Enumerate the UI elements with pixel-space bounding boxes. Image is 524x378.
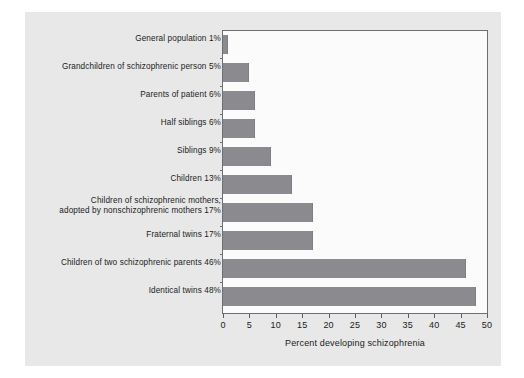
y-axis-tick — [220, 114, 223, 115]
x-axis-tick — [249, 314, 250, 318]
y-axis-tick — [220, 170, 223, 171]
x-axis-tick — [408, 314, 409, 318]
x-axis-tick-label: 10 — [271, 320, 281, 330]
bar — [223, 287, 476, 306]
x-axis-tick — [381, 314, 382, 318]
x-axis-tick-label: 40 — [429, 320, 439, 330]
y-axis-tick — [220, 226, 223, 227]
y-axis-tick — [220, 282, 223, 283]
bar — [223, 35, 228, 54]
bar — [223, 91, 255, 110]
category-label: Identical twins 48% — [25, 286, 221, 296]
x-axis-tick — [487, 314, 488, 318]
category-label: General population 1% — [25, 34, 221, 44]
category-label: Parents of patient 6% — [25, 90, 221, 100]
bar — [223, 203, 313, 222]
category-label: Fraternal twins 17% — [25, 230, 221, 240]
bar — [223, 175, 292, 194]
x-axis-tick-label: 25 — [350, 320, 360, 330]
y-axis-tick — [220, 254, 223, 255]
category-label-column: General population 1% Grandchildren of s… — [25, 30, 221, 314]
bar — [223, 259, 466, 278]
bars-group — [223, 31, 487, 313]
bar — [223, 231, 313, 250]
bar — [223, 119, 255, 138]
category-label: Children of schizophrenic mothers, adopt… — [25, 196, 221, 217]
bar — [223, 63, 249, 82]
x-axis-tick-label: 35 — [403, 320, 413, 330]
y-axis-tick — [220, 198, 223, 199]
x-axis-tick — [434, 314, 435, 318]
category-label: Half siblings 6% — [25, 118, 221, 128]
x-axis-tick — [461, 314, 462, 318]
x-axis-tick-label: 5 — [247, 320, 252, 330]
x-axis-tick — [355, 314, 356, 318]
x-axis-tick-label: 50 — [482, 320, 492, 330]
x-axis-tick-label: 45 — [455, 320, 465, 330]
category-label: Grandchildren of schizophrenic person 5% — [25, 62, 221, 72]
x-axis-tick-label: 0 — [220, 320, 225, 330]
x-axis-tick-label: 15 — [297, 320, 307, 330]
category-label: Children of two schizophrenic parents 46… — [25, 258, 221, 268]
x-axis-tick — [329, 314, 330, 318]
category-label: Children 13% — [25, 174, 221, 184]
figure-panel: General population 1% Grandchildren of s… — [25, 12, 501, 366]
category-label: Siblings 9% — [25, 146, 221, 156]
x-axis-tick-labels: 05101520253035404550 — [222, 320, 488, 334]
y-axis-tick — [220, 58, 223, 59]
bar-chart: General population 1% Grandchildren of s… — [25, 12, 501, 366]
plot-area — [222, 30, 488, 314]
x-axis-tick — [223, 314, 224, 318]
x-axis-tick-label: 20 — [323, 320, 333, 330]
x-axis-tick-label: 30 — [376, 320, 386, 330]
x-axis-title: Percent developing schizophrenia — [222, 338, 488, 348]
y-axis-tick — [220, 86, 223, 87]
x-axis-ticks — [222, 314, 488, 319]
y-axis-tick — [220, 142, 223, 143]
x-axis-tick — [276, 314, 277, 318]
bar — [223, 147, 271, 166]
x-axis-tick — [302, 314, 303, 318]
